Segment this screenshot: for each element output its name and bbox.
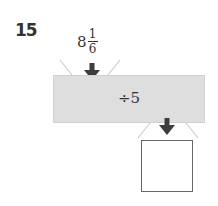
input-fraction: 1 6 bbox=[88, 28, 98, 55]
answer-box[interactable] bbox=[141, 140, 193, 192]
arrow-down-icon bbox=[159, 118, 175, 136]
problem-number: 15 bbox=[15, 20, 37, 40]
input-numerator: 1 bbox=[89, 28, 97, 40]
input-mixed-number: 8 1 6 bbox=[77, 28, 98, 55]
function-machine: ÷5 bbox=[53, 75, 205, 123]
input-denominator: 6 bbox=[89, 43, 97, 55]
input-whole: 8 bbox=[77, 33, 87, 51]
operation-label: ÷5 bbox=[54, 89, 204, 107]
